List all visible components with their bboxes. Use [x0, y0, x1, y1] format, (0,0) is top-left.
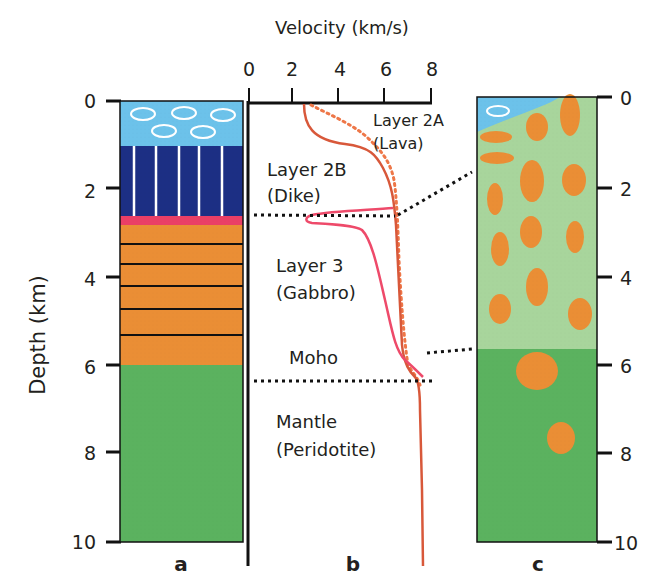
- moho-label: Moho: [289, 347, 338, 368]
- layer2b-label-line2: (Dike): [267, 185, 321, 206]
- panel-a-column: [120, 101, 243, 542]
- figure-canvas: Velocity (km/s) 0 2 4 6 8 Depth (km) 0 2…: [0, 0, 660, 581]
- velocity-tick-4: 4: [334, 58, 346, 80]
- panel-c-column: [477, 94, 597, 542]
- right-depth-tick-6: 6: [620, 355, 632, 377]
- moho-connector-to-panel-c: [427, 349, 472, 353]
- right-depth-tick-10: 10: [614, 532, 638, 554]
- layer3-label-line2: (Gabbro): [276, 282, 356, 303]
- right-depth-ticks: [597, 97, 612, 542]
- velocity-tick-0: 0: [243, 58, 255, 80]
- panel-label-a: a: [174, 552, 188, 576]
- velocity-tick-labels: 0 2 4 6 8: [243, 58, 438, 80]
- velocity-tick-2: 2: [286, 58, 298, 80]
- depth-tick-8: 8: [84, 442, 96, 464]
- layer2a-label-line1: Layer 2A: [373, 111, 444, 130]
- left-depth-ticks: [106, 101, 121, 542]
- right-depth-tick-4: 4: [620, 267, 632, 289]
- layer2b-label-line1: Layer 2B: [267, 159, 347, 180]
- velocity-tick-8: 8: [426, 58, 438, 80]
- right-depth-tick-labels: 0 2 4 6 8 10: [614, 87, 638, 554]
- depth-tick-4: 4: [84, 268, 96, 290]
- mantle-label-line1: Mantle: [276, 411, 337, 432]
- left-depth-tick-labels: 0 2 4 6 8 10: [72, 90, 96, 553]
- right-depth-tick-2: 2: [620, 178, 632, 200]
- panel-label-b: b: [346, 552, 360, 576]
- depth-tick-0: 0: [84, 90, 96, 112]
- layer-labels: Layer 2A (Lava) Layer 2B (Dike) Layer 3 …: [267, 111, 444, 460]
- mantle-label-line2: (Peridotite): [276, 439, 376, 460]
- right-depth-tick-8: 8: [620, 443, 632, 465]
- right-depth-tick-0: 0: [620, 87, 632, 109]
- depth-tick-10: 10: [72, 531, 96, 553]
- layer2-connector-to-panel-c: [398, 172, 472, 215]
- panel-label-c: c: [532, 552, 544, 576]
- layer2b-layer3-boundary-line: [254, 215, 395, 216]
- velocity-axis-title: Velocity (km/s): [275, 17, 409, 38]
- layer3-label-line1: Layer 3: [276, 255, 343, 276]
- velocity-tick-6: 6: [380, 58, 392, 80]
- depth-tick-2: 2: [84, 180, 96, 202]
- layer2a-label-line2: (Lava): [373, 134, 423, 153]
- depth-tick-6: 6: [84, 356, 96, 378]
- depth-axis-title: Depth (km): [26, 275, 50, 395]
